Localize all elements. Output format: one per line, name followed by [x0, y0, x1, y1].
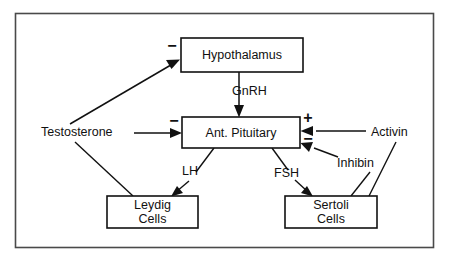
label-lh: LH — [182, 164, 198, 178]
arrowhead-testosterone-hypothalamus — [166, 60, 180, 70]
node-hypothalamus[interactable]: Hypothalamus — [181, 38, 303, 72]
node-anterior-pituitary[interactable]: Ant. Pituitary — [182, 117, 300, 148]
sign-inhibin-pituitary: − — [303, 130, 312, 147]
node-sertoli-cells[interactable]: Sertoli Cells — [285, 196, 377, 228]
diagram-canvas: Hypothalamus Ant. Pituitary Leydig Cells… — [0, 0, 450, 266]
node-sertoli-cells-label-line1: Sertoli — [313, 198, 348, 212]
edge-testosterone-to-pituitary — [134, 128, 182, 138]
hpg-axis-diagram: Hypothalamus Ant. Pituitary Leydig Cells… — [0, 0, 450, 266]
sign-testosterone-hypothalamus: − — [167, 37, 176, 54]
node-sertoli-cells-label-line2: Cells — [317, 212, 345, 226]
label-testosterone: Testosterone — [41, 125, 113, 139]
sign-activin-pituitary: + — [303, 109, 312, 126]
node-anterior-pituitary-label: Ant. Pituitary — [206, 126, 278, 140]
edge-leydig-to-testosterone — [75, 142, 133, 196]
label-gnrh: GnRH — [232, 84, 267, 98]
edge-testosterone-to-hypothalamus — [70, 60, 180, 125]
node-leydig-cells[interactable]: Leydig Cells — [107, 196, 198, 228]
label-fsh: FSH — [274, 166, 299, 180]
node-hypothalamus-label: Hypothalamus — [202, 48, 282, 62]
arrowhead-testosterone-pituitary — [170, 128, 182, 138]
edge-sertoli-to-inhibin — [351, 172, 370, 196]
node-leydig-cells-label-line1: Leydig — [134, 198, 171, 212]
label-activin: Activin — [371, 125, 408, 139]
sign-testosterone-pituitary: − — [169, 112, 178, 129]
arrowhead-gnrh — [234, 105, 244, 118]
label-inhibin: Inhibin — [337, 156, 374, 170]
node-leydig-cells-label-line2: Cells — [139, 212, 167, 226]
